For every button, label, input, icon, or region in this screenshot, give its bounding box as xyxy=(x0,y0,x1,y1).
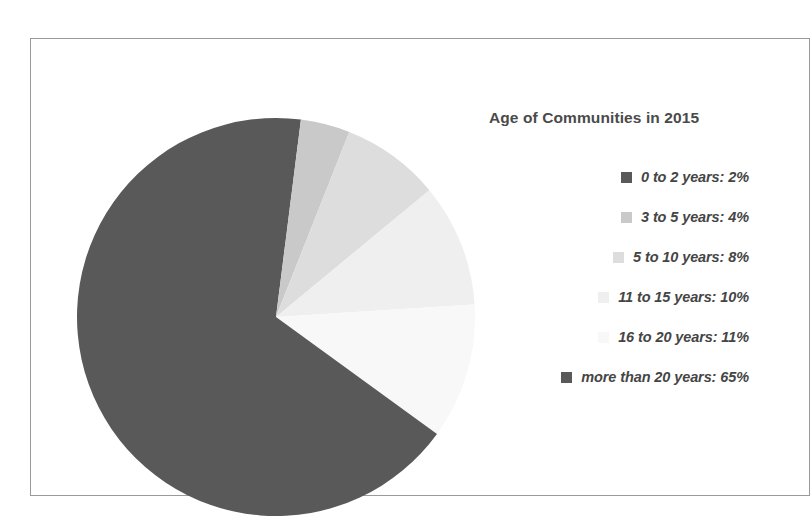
chart-title: Age of Communities in 2015 xyxy=(489,109,761,127)
legend-item[interactable]: 3 to 5 years: 4% xyxy=(471,205,761,229)
legend-item-label: 16 to 20 years: 11% xyxy=(618,329,749,345)
legend-color-swatch-icon xyxy=(621,212,632,223)
legend-item[interactable]: 11 to 15 years: 10% xyxy=(471,285,761,309)
pie-chart xyxy=(76,117,476,517)
legend-item[interactable]: 5 to 10 years: 8% xyxy=(471,245,761,269)
chart-frame-border: Age of Communities in 2015 0 to 2 years:… xyxy=(30,38,810,496)
legend-item-list: 0 to 2 years: 2%3 to 5 years: 4%5 to 10 … xyxy=(471,165,761,389)
legend-item[interactable]: more than 20 years: 65% xyxy=(471,365,761,389)
legend-color-swatch-icon xyxy=(561,372,572,383)
legend-item-label: 0 to 2 years: 2% xyxy=(641,169,749,185)
pie-slice-group xyxy=(77,118,475,516)
legend-color-swatch-icon xyxy=(621,172,632,183)
legend-panel: Age of Communities in 2015 0 to 2 years:… xyxy=(471,109,761,405)
legend-color-swatch-icon xyxy=(613,252,624,263)
legend-item-label: more than 20 years: 65% xyxy=(581,369,749,385)
legend-item-label: 3 to 5 years: 4% xyxy=(641,209,749,225)
pie-chart-svg xyxy=(76,117,476,517)
legend-item[interactable]: 16 to 20 years: 11% xyxy=(471,325,761,349)
legend-item-label: 5 to 10 years: 8% xyxy=(633,249,749,265)
legend-item[interactable]: 0 to 2 years: 2% xyxy=(471,165,761,189)
legend-color-swatch-icon xyxy=(598,332,609,343)
legend-color-swatch-icon xyxy=(598,292,609,303)
legend-item-label: 11 to 15 years: 10% xyxy=(618,289,749,305)
